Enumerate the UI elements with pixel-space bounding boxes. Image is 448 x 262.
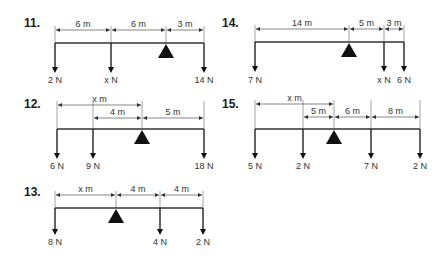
arrow-down-icon <box>54 153 60 159</box>
arrowhead-left-icon <box>56 193 60 197</box>
force-label: 18 N <box>194 161 213 171</box>
force: 7 N <box>248 42 262 85</box>
force-label: 5 N <box>248 161 262 171</box>
dimension: 5 m <box>350 18 383 31</box>
force-label: 6 N <box>397 75 411 85</box>
arrow-down-icon <box>90 153 96 159</box>
pivot-triangle-icon <box>158 44 174 58</box>
arrowhead-left-icon <box>56 28 60 32</box>
distance-label: 4 m <box>130 184 145 194</box>
arrowhead-right-icon <box>329 115 333 119</box>
force-label: x N <box>377 75 391 85</box>
arrow-down-icon <box>52 229 58 235</box>
force: 2 N <box>48 43 62 85</box>
force: 4 N <box>153 208 167 247</box>
arrowhead-left-icon <box>161 193 165 197</box>
dimension: x m <box>56 184 115 197</box>
force: 2 N <box>296 129 310 171</box>
force-label: 2 N <box>196 237 210 247</box>
dimension: 4 m <box>117 184 159 197</box>
arrowhead-right-icon <box>379 27 383 31</box>
force-label: 4 N <box>153 237 167 247</box>
arrow-down-icon <box>368 153 374 159</box>
force-label: 8 N <box>48 237 62 247</box>
dimension: x m <box>256 93 333 106</box>
force-label: 2 N <box>413 161 427 171</box>
dimension: 8 m <box>372 106 419 119</box>
arrow-down-icon <box>401 66 407 72</box>
arrowhead-right-icon <box>344 27 348 31</box>
arrowhead-right-icon <box>199 28 203 32</box>
arrowhead-left-icon <box>167 28 171 32</box>
force-label: 2 N <box>296 161 310 171</box>
dimension: 3 m <box>385 18 403 31</box>
force-label: 7 N <box>364 161 378 171</box>
arrowhead-right-icon <box>366 115 370 119</box>
distance-label: 5 m <box>165 107 180 117</box>
problem-p15: 15.x m5 m6 m8 m5 N2 N7 N2 N <box>222 93 427 171</box>
dimension: 4 m <box>94 107 141 120</box>
dimension: 6 m <box>56 19 110 32</box>
arrowhead-left-icon <box>112 28 116 32</box>
pivot-triangle-icon <box>108 209 124 223</box>
arrowhead-right-icon <box>329 102 333 106</box>
force: 7 N <box>364 129 378 171</box>
force-label: 6 N <box>50 161 64 171</box>
distance-label: 6 m <box>345 106 360 116</box>
arrow-down-icon <box>201 153 207 159</box>
arrowhead-left-icon <box>256 27 260 31</box>
distance-label: x m <box>78 184 93 194</box>
arrow-down-icon <box>108 67 114 73</box>
problem-number: 12. <box>24 97 41 111</box>
arrowhead-right-icon <box>111 193 115 197</box>
distance-label: 5 m <box>311 106 326 116</box>
dimension: 4 m <box>161 184 202 197</box>
arrowhead-right-icon <box>155 193 159 197</box>
problem-number: 11. <box>24 16 40 30</box>
force: 9 N <box>86 129 100 171</box>
problem-number: 14. <box>222 16 239 30</box>
arrowhead-left-icon <box>143 116 147 120</box>
problem-number: 15. <box>222 97 239 111</box>
arrow-down-icon <box>252 66 258 72</box>
force-label: x N <box>104 75 118 85</box>
arrow-down-icon <box>201 67 207 73</box>
dimension: 6 m <box>335 106 370 119</box>
arrowhead-right-icon <box>199 116 203 120</box>
arrowhead-right-icon <box>415 115 419 119</box>
distance-label: 3 m <box>386 18 401 28</box>
arrowhead-right-icon <box>198 193 202 197</box>
arrow-down-icon <box>417 153 423 159</box>
force: 6 N <box>50 129 64 171</box>
arrow-down-icon <box>52 67 58 73</box>
force: 6 N <box>397 42 411 85</box>
arrowhead-right-icon <box>106 28 110 32</box>
force-label: 14 N <box>194 75 213 85</box>
distance-label: 6 m <box>75 19 90 29</box>
force: 5 N <box>248 129 262 171</box>
force-label: 9 N <box>86 161 100 171</box>
arrow-down-icon <box>300 153 306 159</box>
arrow-down-icon <box>381 66 387 72</box>
arrowhead-right-icon <box>137 103 141 107</box>
arrowhead-left-icon <box>372 115 376 119</box>
force: 2 N <box>196 208 210 247</box>
arrowhead-left-icon <box>256 102 260 106</box>
distance-label: x m <box>287 93 302 103</box>
problem-p12: 12.x m4 m5 m6 N9 N18 N <box>24 94 214 171</box>
pivot-triangle-icon <box>326 130 342 144</box>
force: 14 N <box>194 43 213 85</box>
pivot-triangle-icon <box>341 43 357 57</box>
dimension: 6 m <box>112 19 165 32</box>
problem-p14: 14.14 m5 m3 m7 Nx N6 N <box>222 16 411 85</box>
distance-label: 5 m <box>359 18 374 28</box>
arrowhead-left-icon <box>304 115 308 119</box>
arrowhead-left-icon <box>350 27 354 31</box>
distance-label: 4 m <box>174 184 189 194</box>
dimension: 5 m <box>143 107 203 120</box>
dimension: x m <box>58 94 141 107</box>
distance-label: x m <box>92 94 107 104</box>
arrowhead-left-icon <box>335 115 339 119</box>
force: x N <box>104 43 118 85</box>
arrowhead-left-icon <box>117 193 121 197</box>
